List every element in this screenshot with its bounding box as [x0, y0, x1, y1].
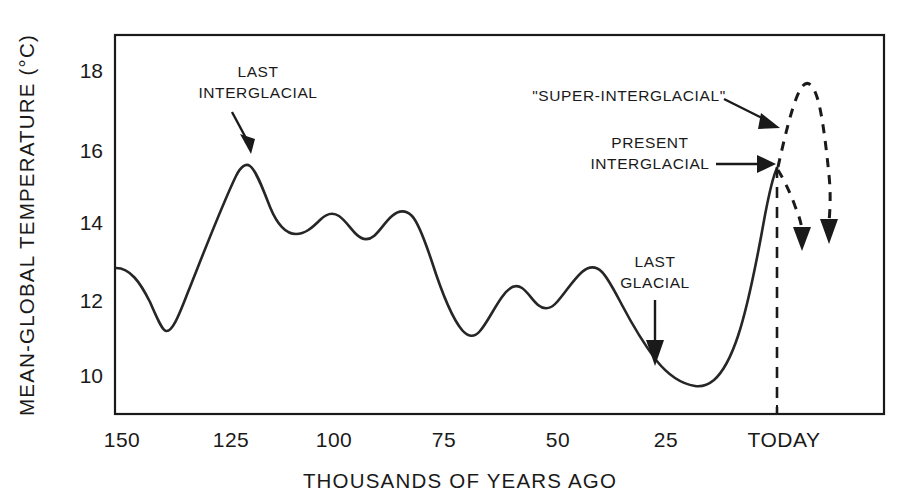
annotation-last-glacial-line1: LAST — [634, 253, 675, 270]
annotation-super-interglacial-arrowhead — [758, 113, 780, 129]
x-tick-label-100: 100 — [316, 428, 353, 451]
super-interglacial-projection — [778, 83, 830, 222]
y-tick-label-10: 10 — [80, 364, 103, 387]
annotation-present-interglacial-line2: INTERGLACIAL — [590, 155, 709, 172]
x-tick-label-75: 75 — [432, 428, 456, 451]
y-tick-label-12: 12 — [80, 289, 103, 312]
x-axis-title: THOUSANDS OF YEARS AGO — [303, 469, 617, 492]
x-tick-label-150: 150 — [104, 428, 141, 451]
chart-canvas: 18 16 14 12 10 MEAN-GLOBAL TEMPERATURE (… — [0, 0, 914, 504]
y-axis-title: MEAN-GLOBAL TEMPERATURE (°C) — [15, 34, 38, 416]
x-tick-label-125: 125 — [213, 428, 250, 451]
x-tick-label-50: 50 — [546, 428, 570, 451]
x-tick-label-25: 25 — [654, 428, 678, 451]
annotation-last-glacial-arrowhead — [646, 340, 664, 366]
annotation-super-interglacial-text: "SUPER-INTERGLACIAL" — [532, 87, 726, 104]
y-tick-label-18: 18 — [80, 59, 103, 82]
annotation-last-glacial-line2: GLACIAL — [620, 274, 690, 291]
y-tick-label-16: 16 — [80, 139, 103, 162]
return-to-glacial-arrowhead — [793, 227, 811, 251]
annotation-last-interglacial-arrowhead — [240, 134, 255, 154]
annotation-last-interglacial-line2: INTERGLACIAL — [198, 84, 317, 101]
annotation-last-interglacial-line1: LAST — [237, 63, 278, 80]
annotation-present-interglacial-line1: PRESENT — [611, 134, 688, 151]
y-tick-label-14: 14 — [80, 211, 104, 234]
annotation-present-interglacial-arrowhead — [757, 155, 776, 173]
temperature-history-figure: 18 16 14 12 10 MEAN-GLOBAL TEMPERATURE (… — [0, 0, 914, 504]
x-tick-label-today: TODAY — [748, 428, 821, 451]
return-to-glacial-projection — [778, 170, 802, 230]
super-interglacial-arrowhead — [820, 219, 838, 244]
